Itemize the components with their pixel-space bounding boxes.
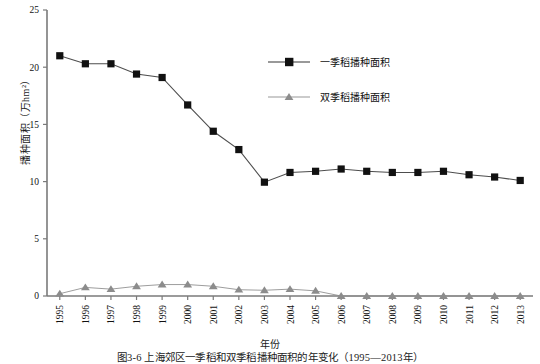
x-axis-tick-label: 1999 [158,305,168,324]
series-marker [389,169,396,176]
x-axis-tick-label: 1998 [132,305,142,324]
x-axis-tick-label: 2013 [516,305,526,324]
x-axis-tick-label: 2007 [362,305,372,324]
x-axis-tick-label: 2005 [311,305,321,324]
legend-marker [285,58,293,66]
series-marker [338,165,345,172]
series-marker [363,168,370,175]
series-marker [159,74,166,81]
line-chart: 0510152025 19951996199719981999200020012… [0,0,540,336]
x-axis-tick-label: 2010 [439,305,449,324]
series-marker [210,128,217,135]
x-axis-tick-label: 2003 [260,305,270,324]
chart-series-group [55,52,524,299]
x-axis-tick-label: 2009 [413,305,423,324]
series-marker [82,60,89,67]
y-axis-title: 播种面积（万hm²） [17,40,32,200]
x-axis-tick-label: 2000 [183,305,193,324]
series-marker [184,101,191,108]
series-marker [235,146,242,153]
series-marker [491,173,498,180]
series-marker [312,168,319,175]
series-marker [81,283,90,290]
x-axis-tick-label: 1995 [55,305,65,324]
x-axis-tick-label: 1996 [81,305,91,324]
x-axis-tick-label: 2001 [209,305,219,324]
legend-marker [285,93,294,100]
x-axis: 1995199619971998199920002001200220032004… [47,296,533,324]
series-marker [440,168,447,175]
x-axis-tick-label: 2004 [286,305,296,324]
y-axis-tick-label: 5 [34,234,39,244]
chart-legend: 一季稻播种面积双季稻播种面积 [268,56,390,103]
series-marker [133,70,140,77]
series-marker [56,52,63,59]
figure-caption: 图3-6 上海郊区一季稻和双季稻播种面积的年变化（1995—2013年） [0,349,540,364]
y-axis-tick-label: 25 [30,5,40,15]
series-marker [414,169,421,176]
legend-item-label: 一季稻播种面积 [320,56,390,68]
x-axis-tick-label: 2006 [337,305,347,324]
series-marker [158,281,167,288]
x-axis-tick-label: 2012 [490,305,500,324]
x-axis-tick-label: 1997 [106,305,116,324]
series-marker [465,171,472,178]
y-axis-tick-label: 0 [34,291,39,301]
x-axis-tick-label: 2002 [234,305,244,324]
series-marker [261,179,268,186]
series-marker [286,169,293,176]
x-axis-tick-label: 2008 [388,305,398,324]
series-marker [183,281,192,288]
series-marker [107,60,114,67]
x-axis-tick-label: 2011 [465,305,475,324]
series-marker [286,285,295,292]
series-line [60,56,520,182]
series-marker [517,177,524,184]
y-axis: 0510152025 [30,5,48,301]
legend-item-label: 双季稻播种面积 [320,91,390,103]
